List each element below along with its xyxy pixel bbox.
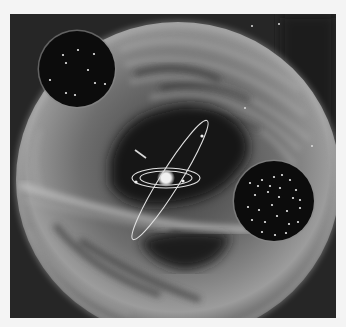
star [62, 54, 64, 56]
star [288, 223, 290, 225]
star [271, 204, 273, 206]
planet [134, 180, 137, 183]
star [269, 185, 271, 187]
star [281, 174, 283, 176]
star [257, 185, 259, 187]
star [274, 234, 276, 236]
star [267, 191, 269, 193]
sun [161, 173, 171, 183]
star [87, 69, 89, 71]
star [65, 92, 67, 94]
star [261, 179, 263, 181]
star [286, 210, 288, 212]
inset-disc [234, 161, 314, 241]
dense-star-field-inset [233, 160, 316, 243]
star [74, 94, 76, 96]
star [247, 206, 249, 208]
planet [181, 179, 184, 182]
star [251, 25, 253, 27]
star [273, 176, 275, 178]
sparse-star-field-inset [38, 30, 117, 109]
star [299, 207, 301, 209]
star [297, 221, 299, 223]
star [295, 189, 297, 191]
star [254, 194, 256, 196]
star [289, 179, 291, 181]
planet [200, 134, 203, 137]
star [93, 53, 95, 55]
inset-disc [39, 31, 115, 107]
star [311, 145, 313, 147]
heliosphere-illustration [10, 14, 336, 318]
star [94, 82, 96, 84]
star [261, 231, 263, 233]
star [285, 232, 287, 234]
star [104, 83, 106, 85]
star [249, 182, 251, 184]
star [278, 23, 280, 25]
star [276, 215, 278, 217]
star [278, 196, 280, 198]
star [264, 221, 266, 223]
star [258, 209, 260, 211]
star [77, 49, 79, 51]
star [65, 62, 67, 64]
star [292, 197, 294, 199]
star [279, 187, 281, 189]
star [49, 79, 51, 81]
illustration-frame [10, 14, 336, 318]
star [299, 199, 301, 201]
star [251, 219, 253, 221]
star [244, 107, 246, 109]
